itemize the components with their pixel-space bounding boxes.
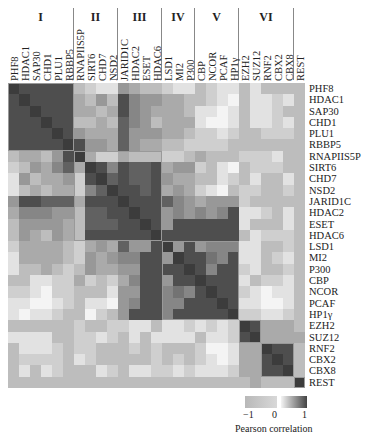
heatmap-cell	[206, 151, 217, 162]
heatmap-cell	[118, 94, 129, 105]
row-label: SIRT6	[309, 162, 371, 173]
heatmap-cell	[239, 354, 250, 365]
heatmap-cell	[294, 207, 305, 218]
heatmap-cell	[74, 252, 85, 263]
heatmap-cell	[272, 151, 283, 162]
heatmap-cell	[294, 286, 305, 297]
heatmap-cell	[63, 230, 74, 241]
heatmap-cell	[96, 219, 107, 230]
colorbar-legend: −1 0 1	[245, 396, 315, 420]
heatmap-cell	[261, 151, 272, 162]
heatmap-cell	[217, 298, 228, 309]
heatmap-cell	[294, 354, 305, 365]
heatmap-cell	[283, 94, 294, 105]
heatmap-cell	[294, 151, 305, 162]
heatmap-cell	[52, 309, 63, 320]
heatmap-cell	[19, 309, 30, 320]
heatmap-cell	[129, 275, 140, 286]
correlation-heatmap	[8, 83, 305, 388]
heatmap-cell	[239, 173, 250, 184]
heatmap-cell	[19, 377, 30, 388]
heatmap-cell	[85, 275, 96, 286]
heatmap-cell	[52, 185, 63, 196]
row-label: RBBP5	[309, 139, 371, 150]
heatmap-cell	[52, 365, 63, 376]
heatmap-cell	[217, 343, 228, 354]
heatmap-cell	[283, 377, 294, 388]
heatmap-cell	[294, 377, 305, 388]
heatmap-cell	[283, 252, 294, 263]
heatmap-cell	[217, 365, 228, 376]
column-label: NSD2	[107, 18, 118, 82]
heatmap-cell	[140, 320, 151, 331]
column-label: CBX2	[272, 18, 283, 82]
heatmap-cell	[217, 185, 228, 196]
heatmap-cell	[63, 117, 74, 128]
heatmap-cell	[63, 275, 74, 286]
heatmap-cell	[74, 365, 85, 376]
heatmap-cell	[74, 230, 85, 241]
heatmap-cell	[228, 151, 239, 162]
heatmap-cell	[261, 343, 272, 354]
heatmap-cell	[19, 264, 30, 275]
heatmap-cell	[173, 162, 184, 173]
heatmap-cell	[96, 230, 107, 241]
heatmap-cell	[206, 343, 217, 354]
row-label: MI2	[309, 252, 371, 263]
heatmap-cell	[206, 173, 217, 184]
heatmap-cell	[41, 354, 52, 365]
heatmap-cell	[184, 151, 195, 162]
heatmap-cell	[294, 162, 305, 173]
heatmap-cell	[63, 219, 74, 230]
heatmap-cell	[118, 309, 129, 320]
heatmap-cell	[228, 365, 239, 376]
heatmap-cell	[250, 106, 261, 117]
heatmap-cell	[173, 106, 184, 117]
heatmap-cell	[206, 83, 217, 94]
heatmap-cell	[162, 151, 173, 162]
heatmap-cell	[195, 219, 206, 230]
heatmap-cell	[19, 139, 30, 150]
column-label: HP1γ	[228, 18, 239, 82]
heatmap-cell	[74, 286, 85, 297]
column-label: PLU1	[52, 18, 63, 82]
heatmap-cell	[261, 196, 272, 207]
heatmap-cell	[162, 106, 173, 117]
heatmap-cell	[30, 173, 41, 184]
heatmap-cell	[63, 298, 74, 309]
heatmap-cell	[195, 343, 206, 354]
heatmap-cell	[96, 117, 107, 128]
heatmap-cell	[52, 252, 63, 263]
heatmap-cell	[228, 185, 239, 196]
heatmap-cell	[30, 207, 41, 218]
column-label-text: RBBP5	[63, 49, 74, 81]
heatmap-cell	[173, 275, 184, 286]
heatmap-cell	[8, 309, 19, 320]
heatmap-cell	[8, 139, 19, 150]
heatmap-cell	[41, 185, 52, 196]
column-label: SIRT6	[85, 18, 96, 82]
heatmap-cell	[129, 365, 140, 376]
heatmap-cell	[85, 117, 96, 128]
heatmap-cell	[151, 332, 162, 343]
heatmap-cell	[52, 377, 63, 388]
row-label: HDAC2	[309, 207, 371, 218]
heatmap-cell	[184, 219, 195, 230]
heatmap-cell	[217, 207, 228, 218]
heatmap-cell	[272, 264, 283, 275]
heatmap-cell	[41, 332, 52, 343]
heatmap-cell	[239, 128, 250, 139]
heatmap-cell	[261, 185, 272, 196]
heatmap-cell	[228, 275, 239, 286]
heatmap-cell	[107, 151, 118, 162]
heatmap-cell	[173, 94, 184, 105]
heatmap-cell	[162, 207, 173, 218]
heatmap-cell	[228, 298, 239, 309]
heatmap-cell	[173, 354, 184, 365]
heatmap-cell	[8, 219, 19, 230]
heatmap-cell	[250, 185, 261, 196]
heatmap-cell	[228, 83, 239, 94]
heatmap-cell	[140, 343, 151, 354]
colorbar-title: Pearson correlation	[235, 423, 312, 434]
heatmap-cell	[195, 264, 206, 275]
